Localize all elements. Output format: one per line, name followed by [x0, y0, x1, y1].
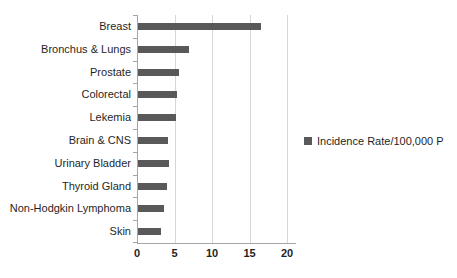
bar — [138, 46, 189, 53]
category-axis-labels: BreastBronchus & LungsProstateColorectal… — [0, 15, 131, 243]
category-axis-tick — [133, 175, 137, 176]
gridline-15 — [250, 15, 251, 243]
bar — [138, 69, 179, 76]
category-label: Brain & CNS — [0, 134, 131, 146]
value-axis-labels: 05101520 — [0, 247, 457, 263]
category-label: Breast — [0, 20, 131, 32]
category-axis-tick — [133, 197, 137, 198]
category-label: Thyroid Gland — [0, 180, 131, 192]
legend-swatch — [304, 137, 312, 145]
bar — [138, 23, 261, 30]
category-axis-tick — [133, 129, 137, 130]
bar — [138, 91, 177, 98]
category-axis-tick — [133, 61, 137, 62]
category-label: Skin — [0, 225, 131, 237]
category-label: Prostate — [0, 66, 131, 78]
gridline-10 — [212, 15, 213, 243]
category-label: Colorectal — [0, 88, 131, 100]
category-axis-tick — [133, 106, 137, 107]
x-tick-label-5: 5 — [160, 247, 190, 259]
x-tick-label-20: 20 — [272, 247, 302, 259]
category-label: Bronchus & Lungs — [0, 43, 131, 55]
category-axis-tick — [133, 83, 137, 84]
bar — [138, 183, 167, 190]
category-label: Non-Hodgkin Lymphoma — [0, 202, 131, 214]
category-axis-tick — [133, 15, 137, 16]
bar — [138, 160, 169, 167]
x-tick-label-10: 10 — [197, 247, 227, 259]
bar — [138, 228, 161, 235]
x-tick-label-15: 15 — [235, 247, 265, 259]
category-label: Lekemia — [0, 111, 131, 123]
bar — [138, 205, 164, 212]
category-axis-tick — [133, 220, 137, 221]
category-axis-tick — [133, 38, 137, 39]
category-label: Urinary Bladder — [0, 157, 131, 169]
gridline-20 — [287, 15, 288, 243]
category-axis-tick — [133, 242, 137, 243]
bar — [138, 137, 168, 144]
legend-label: Incidence Rate/100,000 P — [317, 135, 444, 147]
legend: Incidence Rate/100,000 P — [304, 135, 444, 147]
category-axis-tick — [133, 152, 137, 153]
bar — [138, 114, 176, 121]
plot-area — [137, 15, 296, 244]
chart-page: BreastBronchus & LungsProstateColorectal… — [0, 0, 457, 278]
x-tick-label-0: 0 — [122, 247, 152, 259]
